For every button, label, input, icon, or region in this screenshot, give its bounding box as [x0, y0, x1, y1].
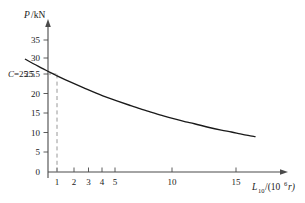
y-axis-title-symbol: P — [23, 10, 30, 20]
x-tick-label-1: 1 — [55, 177, 60, 187]
y-tick-label-20: 20 — [31, 89, 41, 99]
x-tick-label-3: 3 — [86, 177, 91, 187]
y-axis-title-unit: /kN — [31, 10, 45, 20]
annotation-c-label: C =25.5 — [8, 69, 35, 79]
x-axis-title-divider: /(10 — [265, 182, 281, 193]
bearing-life-chart: 35 30 25.5 20 15 10 5 0 1 2 3 4 5 10 15 … — [0, 0, 305, 203]
y-tick-label-5: 5 — [36, 147, 41, 157]
x-tick-label-4: 4 — [100, 177, 105, 187]
x-tick-label-10: 10 — [168, 177, 178, 187]
x-axis-title-unit-tail: r) — [288, 182, 295, 193]
y-axis-title: P /kN — [23, 10, 45, 20]
y-tick-label-30: 30 — [31, 53, 41, 63]
y-tick-label-10: 10 — [31, 128, 41, 138]
x-axis-title-subscript: 10 — [258, 187, 265, 194]
y-tick-label-35: 35 — [31, 35, 41, 45]
x-axis-title-symbol: L — [251, 182, 257, 192]
annotation-c-value: =25.5 — [14, 69, 35, 79]
x-tick-label-15: 15 — [232, 177, 242, 187]
x-tick-label-5: 5 — [113, 177, 118, 187]
x-tick-label-2: 2 — [72, 177, 77, 187]
y-tick-label-15: 15 — [31, 108, 41, 118]
y-tick-label-0: 0 — [36, 167, 41, 177]
